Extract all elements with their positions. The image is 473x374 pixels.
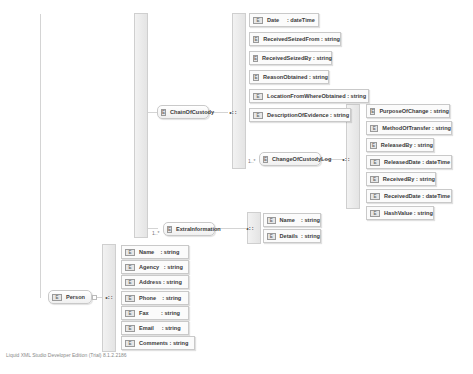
element-icon: E bbox=[267, 217, 276, 224]
element-icon: E bbox=[370, 159, 380, 166]
element-released-date[interactable]: E ReleasedDate : dateTime bbox=[366, 155, 452, 169]
element-person-phone[interactable]: E Phone : string bbox=[121, 291, 189, 305]
element-icon: E bbox=[253, 55, 258, 62]
complex-element-icon: E bbox=[52, 294, 62, 301]
element-icon: E bbox=[125, 264, 135, 271]
element-label: Date : dateTime bbox=[267, 17, 315, 23]
element-label: ExtraInformation bbox=[176, 226, 221, 232]
element-label: Name : string bbox=[280, 217, 320, 223]
element-label: ReleasedBy : string bbox=[381, 142, 433, 148]
element-label: ChangeOfCustodyLog bbox=[272, 156, 331, 162]
sequence-icon[interactable]: •∷ bbox=[245, 224, 254, 233]
element-label: ReceivedBy : string bbox=[383, 176, 435, 182]
element-person-agency[interactable]: E Agency : string bbox=[121, 260, 189, 274]
complex-element-icon: E bbox=[263, 156, 268, 163]
complex-element-icon: E bbox=[161, 109, 166, 116]
element-icon: E bbox=[267, 233, 276, 240]
element-purpose-of-change[interactable]: E PurposeOfChange : string bbox=[366, 104, 450, 118]
cardinality-label: 1..* bbox=[152, 230, 160, 236]
element-extra-information[interactable]: E ExtraInformation bbox=[163, 222, 215, 236]
element-chain-of-custody[interactable]: E ChainOfCustody bbox=[157, 105, 209, 119]
element-label: MethodOfTransfer : string bbox=[382, 125, 451, 131]
element-location-from-where-obtained[interactable]: E LocationFromWhereObtained : string bbox=[249, 89, 369, 103]
element-icon: E bbox=[370, 108, 375, 115]
sequence-icon[interactable]: •∷ bbox=[228, 108, 237, 117]
element-label: LocationFromWhereObtained : string bbox=[267, 93, 366, 99]
element-person-email[interactable]: E Email : string bbox=[121, 321, 189, 335]
element-label: PurposeOfChange : string bbox=[379, 108, 449, 114]
element-extra-details[interactable]: E Details : string bbox=[263, 229, 321, 243]
complex-element-icon: E bbox=[167, 226, 172, 233]
element-description-of-evidence[interactable]: E DescriptionOfEvidence : string bbox=[249, 108, 351, 122]
element-icon: E bbox=[370, 142, 377, 149]
element-received-seized-by[interactable]: E ReceivedSeizedBy : string bbox=[249, 51, 332, 65]
element-icon: E bbox=[253, 93, 263, 100]
element-received-seized-from[interactable]: E ReceivedSeizedFrom : string bbox=[249, 32, 341, 46]
element-label: ReceivedSeizedFrom : string bbox=[263, 36, 340, 42]
element-label: Agency : string bbox=[139, 264, 183, 270]
element-hash-value[interactable]: E HashValue : string bbox=[366, 206, 434, 220]
element-person[interactable]: E Person bbox=[48, 290, 92, 304]
sequence-icon[interactable]: •∷ bbox=[341, 155, 350, 164]
element-received-date[interactable]: E ReceivedDate : dateTime bbox=[366, 189, 452, 203]
element-icon: E bbox=[253, 112, 263, 119]
element-label: HashValue : string bbox=[384, 210, 433, 216]
element-icon: E bbox=[125, 310, 135, 317]
schema-diagram-canvas: •∷ •∷ •∷ •∷ E Person E ChainOfCustody E … bbox=[0, 0, 473, 374]
element-person-name[interactable]: E Name : string bbox=[121, 245, 189, 259]
element-label: Fax : string bbox=[139, 310, 180, 316]
element-icon: E bbox=[370, 193, 380, 200]
root-sequence-bar bbox=[134, 13, 148, 238]
element-label: ReceivedSeizedBy : string bbox=[262, 55, 332, 61]
element-icon: E bbox=[125, 340, 135, 347]
element-icon: E bbox=[370, 176, 379, 183]
element-icon: E bbox=[370, 210, 380, 217]
element-icon: E bbox=[125, 279, 135, 286]
cardinality-label: 1..* bbox=[248, 158, 256, 164]
element-icon: E bbox=[125, 249, 135, 256]
sequence-icon[interactable]: •∷ bbox=[104, 293, 113, 302]
element-extra-name[interactable]: E Name : string bbox=[263, 213, 321, 227]
element-icon: E bbox=[253, 17, 263, 24]
connector-extra bbox=[148, 228, 158, 229]
element-received-by[interactable]: E ReceivedBy : string bbox=[366, 172, 436, 186]
element-date[interactable]: E Date : dateTime bbox=[249, 13, 319, 27]
watermark-footer: Liquid XML Studio Developer Edition (Tri… bbox=[6, 352, 127, 358]
element-icon: E bbox=[370, 125, 378, 132]
element-label: Comments : string bbox=[139, 340, 188, 346]
element-person-fax[interactable]: E Fax : string bbox=[121, 306, 189, 320]
element-label: Details : string bbox=[280, 233, 320, 239]
element-label: Name : string bbox=[139, 249, 179, 255]
element-reason-obtained[interactable]: E ReasonObtained : string bbox=[249, 70, 329, 84]
element-person-comments[interactable]: E Comments : string bbox=[121, 336, 195, 350]
element-label: ReasonObtained : string bbox=[263, 74, 328, 80]
element-method-of-transfer[interactable]: E MethodOfTransfer : string bbox=[366, 121, 452, 135]
element-person-address[interactable]: E Address : string bbox=[121, 275, 189, 289]
element-icon: E bbox=[125, 295, 135, 302]
element-label: Address : string bbox=[139, 279, 182, 285]
expand-toggle[interactable] bbox=[92, 295, 97, 300]
element-icon: E bbox=[253, 74, 259, 81]
chain-sequence-bar bbox=[232, 13, 246, 169]
element-icon: E bbox=[253, 36, 259, 43]
element-label: Person bbox=[66, 294, 85, 300]
element-label: ReleasedDate : dateTime bbox=[384, 159, 450, 165]
element-change-of-custody-log[interactable]: E ChangeOfCustodyLog bbox=[259, 152, 321, 166]
element-label: ReceivedDate : dateTime bbox=[384, 193, 450, 199]
element-icon: E bbox=[125, 325, 135, 332]
element-label: ChainOfCustody bbox=[170, 109, 214, 115]
element-label: Phone : string bbox=[139, 295, 181, 301]
element-label: Email : string bbox=[139, 325, 181, 331]
element-released-by[interactable]: E ReleasedBy : string bbox=[366, 138, 434, 152]
connector-left-vertical bbox=[40, 14, 41, 298]
element-label: DescriptionOfEvidence : string bbox=[267, 112, 349, 118]
